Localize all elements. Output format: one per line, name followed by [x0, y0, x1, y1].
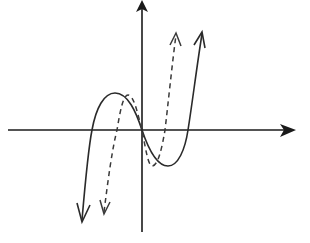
graph-canvas	[0, 0, 310, 243]
function-graph-figure	[0, 0, 310, 243]
x-axis	[8, 124, 296, 137]
